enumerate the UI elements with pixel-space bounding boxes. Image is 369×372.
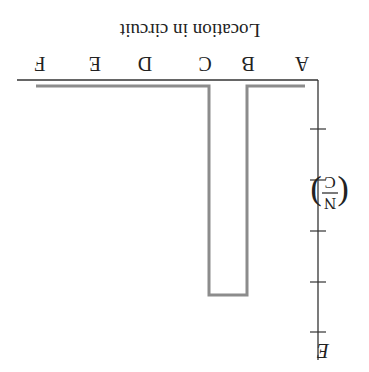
x-axis-title: Location in circuit	[119, 20, 260, 41]
field-line	[36, 86, 305, 295]
y-axis-symbol: E	[317, 340, 330, 362]
x-label-c: C	[198, 53, 211, 75]
paren-open: (	[337, 175, 348, 213]
x-label-f: F	[34, 53, 45, 75]
x-label-e: E	[89, 53, 101, 75]
x-tick-labels: A B C D E F	[34, 53, 309, 75]
chart-canvas: A B C D E F Location in circuit E ( N C …	[0, 0, 369, 372]
x-label-b: B	[241, 53, 254, 75]
units-numerator: N	[324, 194, 336, 213]
paren-close: )	[310, 175, 321, 213]
units-denominator: C	[324, 173, 335, 192]
x-label-d: D	[138, 53, 152, 75]
y-axis-units: ( N C )	[310, 173, 348, 213]
x-label-a: A	[294, 53, 309, 75]
